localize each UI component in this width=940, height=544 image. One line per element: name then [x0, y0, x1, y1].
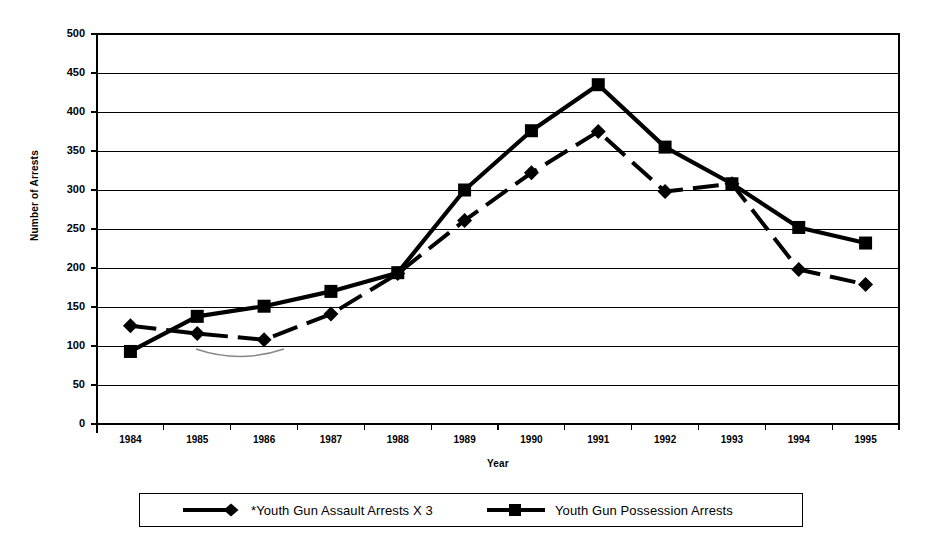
chart-figure: Number of Arrests Year 50045040035030025…: [0, 0, 940, 544]
x-axis-tick-marks: [97, 424, 899, 430]
data-point-marker: [859, 237, 872, 250]
diamond-marker-icon: [181, 502, 243, 518]
data-point-marker: [324, 285, 337, 298]
data-point-marker: [525, 124, 538, 137]
plot-frame: [97, 34, 899, 433]
data-point-marker: [792, 221, 805, 234]
data-point-marker: [323, 307, 338, 322]
data-point-marker: [258, 300, 271, 313]
legend-label-assault: *Youth Gun Assault Arrests X 3: [251, 503, 433, 518]
legend-entry-possession: Youth Gun Possession Arrests: [485, 494, 733, 526]
gridlines: [97, 73, 899, 385]
data-point-marker: [190, 326, 205, 341]
data-point-marker: [124, 345, 137, 358]
legend-entry-assault: *Youth Gun Assault Arrests X 3: [181, 494, 433, 526]
data-point-marker: [458, 184, 471, 197]
data-point-marker: [257, 332, 272, 347]
data-point-marker: [592, 78, 605, 91]
data-point-marker: [659, 141, 672, 154]
data-series-layer: [123, 78, 873, 358]
square-marker-icon: [485, 502, 547, 518]
data-point-marker: [123, 318, 138, 333]
data-point-marker: [191, 310, 204, 323]
data-point-marker: [858, 277, 873, 292]
chart-legend: *Youth Gun Assault Arrests X 3 Youth Gun…: [139, 493, 803, 527]
legend-label-possession: Youth Gun Possession Arrests: [555, 503, 733, 518]
scan-artifact: [196, 349, 284, 357]
data-point-marker: [791, 262, 806, 277]
data-series-assault: [123, 124, 873, 347]
plot-area: [0, 0, 940, 544]
